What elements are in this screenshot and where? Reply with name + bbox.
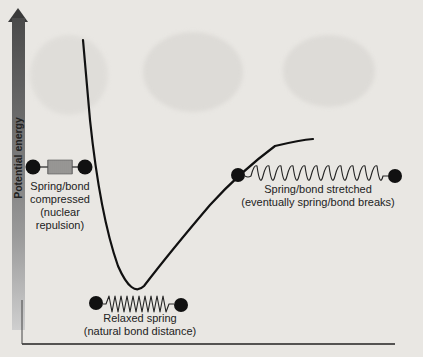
- compressed-label-line1: Spring/bond: [28, 180, 92, 193]
- stretched-label-line1: Spring/bond stretched: [238, 183, 398, 196]
- relaxed-label-line1: Relaxed spring: [78, 312, 202, 325]
- compressed-label-line3: (nuclear: [28, 206, 92, 219]
- potential-energy-curve: [83, 40, 313, 289]
- relaxed-label: Relaxed spring (natural bond distance): [78, 312, 202, 338]
- diagram-canvas: Potential energy Spring/: [0, 0, 423, 357]
- compressed-spring-icon: [26, 160, 93, 175]
- relaxed-label-line2: (natural bond distance): [78, 325, 202, 338]
- compressed-label: Spring/bond compressed (nuclear repulsio…: [28, 180, 92, 232]
- relaxed-spring-icon: [89, 296, 188, 312]
- stretched-label-line2: (eventually spring/bond breaks): [238, 196, 398, 209]
- compressed-label-line2: compressed: [28, 193, 92, 206]
- compressed-label-line4: repulsion): [28, 219, 92, 232]
- stretched-label: Spring/bond stretched (eventually spring…: [238, 183, 398, 209]
- plot-area: [0, 0, 423, 357]
- stretched-spring-icon: [231, 166, 402, 183]
